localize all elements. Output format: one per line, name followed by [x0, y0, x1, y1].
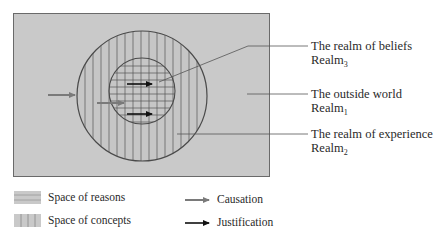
- experience-label: The realm of experience Realm2: [311, 127, 433, 160]
- legend-reasons-label: Space of reasons: [48, 191, 125, 204]
- outside-label: The outside world Realm1: [311, 87, 402, 120]
- beliefs-realm: Realm3: [311, 53, 412, 72]
- beliefs-label: The realm of beliefs Realm3: [311, 39, 412, 72]
- outside-realm: Realm1: [311, 101, 402, 120]
- legend-concepts-swatch: [14, 214, 41, 227]
- experience-realm: Realm2: [311, 141, 433, 160]
- legend-reasons-swatch: [14, 191, 41, 204]
- experience-title: The realm of experience: [311, 127, 433, 141]
- legend-causation-label: Causation: [217, 193, 263, 206]
- legend-concepts-label: Space of concepts: [48, 214, 131, 227]
- outside-title: The outside world: [311, 87, 402, 101]
- beliefs-title: The realm of beliefs: [311, 39, 412, 53]
- realms-diagram: [0, 0, 441, 245]
- legend-justification-label: Justification: [217, 216, 273, 229]
